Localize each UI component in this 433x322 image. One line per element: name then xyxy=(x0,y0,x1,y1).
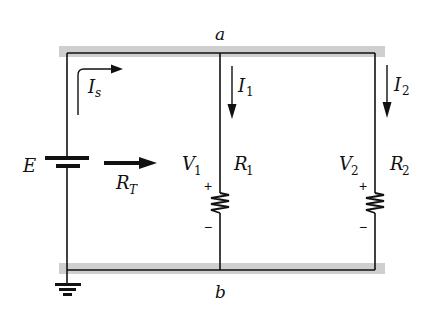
branch1-current-label: I 1 xyxy=(237,75,254,99)
branch1-minus-sign: − xyxy=(204,219,212,235)
branch2-plus-sign: + xyxy=(359,178,367,194)
wires xyxy=(67,53,375,283)
svg-text:1: 1 xyxy=(246,164,254,178)
svg-text:1: 1 xyxy=(246,85,254,99)
svg-text:T: T xyxy=(129,183,138,197)
svg-text:2: 2 xyxy=(402,164,410,178)
branch2-resistor-label: R 2 xyxy=(389,153,410,178)
source-voltage-label: E xyxy=(22,155,36,176)
branch2-current-label: I 2 xyxy=(393,74,410,98)
resistor-r1-icon xyxy=(211,193,229,213)
branch1-current-arrow-icon xyxy=(228,66,237,119)
total-resistance-label: R T xyxy=(115,172,138,197)
branch1-voltage-label: V 1 xyxy=(182,153,202,178)
branch2-current-arrow-icon xyxy=(383,65,392,118)
resistor-r2-icon xyxy=(366,193,384,213)
svg-text:s: s xyxy=(95,86,101,100)
svg-text:1: 1 xyxy=(194,164,202,178)
node-a-label: a xyxy=(215,24,225,44)
branch2-minus-sign: − xyxy=(359,219,367,235)
branch1-resistor-label: R 1 xyxy=(233,153,254,178)
svg-text:I: I xyxy=(393,74,402,95)
branch1-plus-sign: + xyxy=(204,178,212,194)
svg-text:R: R xyxy=(115,172,130,193)
node-b-rail-highlight xyxy=(59,263,385,274)
svg-text:I: I xyxy=(237,75,246,96)
battery-icon xyxy=(45,156,89,168)
node-b-label: b xyxy=(215,282,226,302)
branch2-voltage-label: V 2 xyxy=(339,153,359,178)
source-current-label: I s xyxy=(87,76,101,100)
circuit-diagram: a b E I s R T I 1 + − V 1 R 1 I 2 + − V … xyxy=(0,0,433,322)
ground-icon xyxy=(55,283,81,296)
svg-text:2: 2 xyxy=(351,164,359,178)
total-resistance-arrow-icon xyxy=(104,157,157,169)
node-a-rail-highlight xyxy=(59,46,385,57)
svg-text:2: 2 xyxy=(402,84,410,98)
